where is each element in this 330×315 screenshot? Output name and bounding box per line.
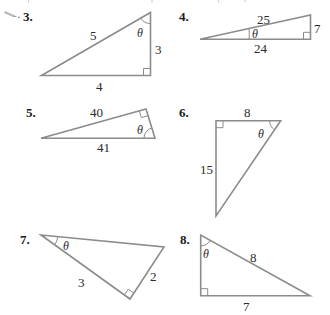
angle-arc <box>270 121 275 130</box>
side-label-vertical: 7 <box>314 21 321 36</box>
side-label-right: 2 <box>150 269 157 284</box>
angle-theta-label: θ <box>203 247 209 261</box>
pencil-icon <box>4 11 20 18</box>
triangle <box>42 13 151 76</box>
angle-theta-label: θ <box>258 127 264 141</box>
angle-arc <box>141 18 151 23</box>
right-angle-marker <box>216 121 223 128</box>
side-label-vertical: 3 <box>155 42 162 57</box>
angle-arc <box>144 128 152 139</box>
problem-8: 8. θ 8 7 <box>180 232 310 314</box>
angle-theta-label: θ <box>137 123 143 137</box>
problem-number: 5. <box>26 105 36 120</box>
problem-number: 8. <box>180 232 190 247</box>
problem-number: 4. <box>179 9 189 24</box>
problem-number: 3. <box>23 9 33 24</box>
problem-number: 7. <box>20 232 30 247</box>
angle-arc <box>201 241 210 246</box>
side-label-bottom: 41 <box>97 140 110 155</box>
problem-5: 5. θ 40 41 <box>26 105 155 155</box>
triangle <box>41 235 164 299</box>
side-label-hypotenuse: 8 <box>250 250 257 265</box>
side-label-bottom: 7 <box>243 299 250 314</box>
right-angle-marker <box>144 69 151 76</box>
problem-4: 4. θ 25 7 24 <box>179 9 321 56</box>
side-label-top: 40 <box>90 105 103 120</box>
side-label-top: 8 <box>244 105 251 120</box>
right-angle-marker <box>304 32 311 39</box>
problem-number: 6. <box>179 105 189 120</box>
side-label-horizontal: 4 <box>96 79 103 94</box>
exercise-figure: 3. θ 5 3 4 4. θ 25 7 24 5. θ 40 <box>0 0 330 315</box>
angle-arc <box>55 237 58 245</box>
side-label-horizontal: 24 <box>254 41 268 56</box>
side-label-hypotenuse: 5 <box>90 28 97 43</box>
angle-theta-label: θ <box>63 239 69 253</box>
problem-7: 7. θ 3 2 <box>20 232 164 299</box>
angle-theta-label: θ <box>137 26 143 40</box>
angle-theta-label: θ <box>252 27 258 41</box>
side-label-left: 15 <box>200 162 213 177</box>
triangle <box>201 235 310 296</box>
problem-6: 6. θ 8 15 <box>179 105 281 216</box>
cutoff-text-fragments <box>28 0 245 3</box>
problem-3: 3. θ 5 3 4 <box>23 9 162 94</box>
triangle <box>216 121 281 216</box>
triangles-diagram: 3. θ 5 3 4 4. θ 25 7 24 5. θ 40 <box>0 0 330 315</box>
right-angle-marker <box>201 289 208 296</box>
side-label-left: 3 <box>78 275 85 290</box>
side-label-hypotenuse: 25 <box>257 12 270 27</box>
